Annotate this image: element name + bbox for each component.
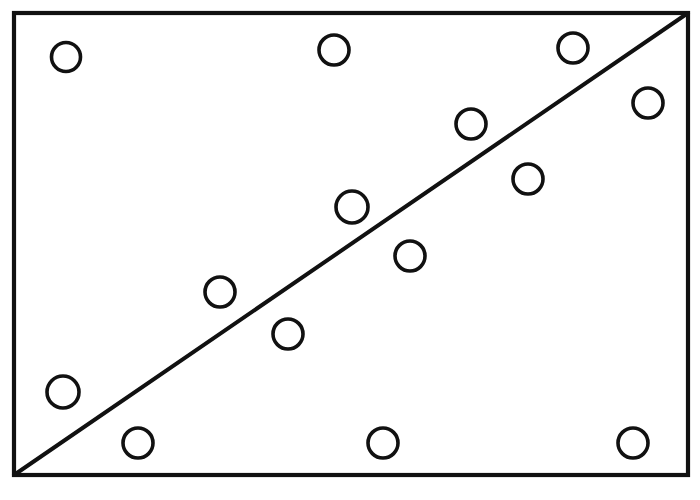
- data-point: [47, 376, 79, 408]
- data-point: [558, 33, 588, 63]
- data-point: [336, 191, 368, 223]
- data-point: [319, 35, 349, 65]
- data-point: [273, 319, 303, 349]
- figure-root: [0, 0, 700, 500]
- data-point: [123, 428, 153, 458]
- data-point: [618, 428, 648, 458]
- data-point: [633, 88, 663, 118]
- data-point: [368, 428, 398, 458]
- data-point: [52, 43, 81, 72]
- data-point: [456, 109, 486, 139]
- data-point: [205, 277, 235, 307]
- data-point: [513, 164, 543, 194]
- scatter-plot-canvas: [0, 0, 700, 500]
- data-point: [395, 241, 425, 271]
